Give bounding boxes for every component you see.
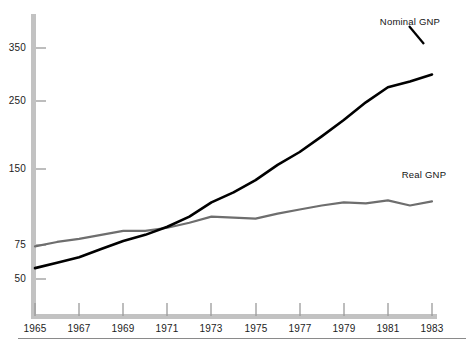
- x-tick-label-1967: 1967: [56, 323, 102, 334]
- series-annotation-real-gnp: Real GNP: [402, 169, 446, 180]
- y-tick-label-50: 50: [0, 273, 26, 284]
- y-tick-label-75: 75: [0, 239, 26, 250]
- y-tick-label-350: 350: [0, 42, 26, 53]
- x-axis-line: [31, 314, 437, 319]
- x-tick-label-1981: 1981: [365, 323, 411, 334]
- series-line-real-gnp: [35, 200, 432, 246]
- y-tick-label-250: 250: [0, 95, 26, 106]
- x-tick-label-1973: 1973: [188, 323, 234, 334]
- series-line-nominal-gnp: [35, 75, 432, 269]
- gnp-line-chart-figure: 350 250 150 75 50 1965 1967 1969 1971 19…: [0, 0, 475, 345]
- x-tick-label-1975: 1975: [233, 323, 279, 334]
- x-tick-label-1969: 1969: [100, 323, 146, 334]
- x-tick-label-1971: 1971: [144, 323, 190, 334]
- x-tick-label-1979: 1979: [321, 323, 367, 334]
- nominal-gnp-leader-line: [409, 26, 424, 44]
- x-tick-label-1965: 1965: [12, 323, 58, 334]
- x-tick-label-1977: 1977: [277, 323, 323, 334]
- series-annotation-nominal-gnp: Nominal GNP: [380, 16, 440, 27]
- bottom-divider-rule: [18, 338, 466, 339]
- y-axis-line: [31, 14, 36, 319]
- y-tick-label-150: 150: [0, 163, 26, 174]
- x-tick-label-1983: 1983: [409, 323, 455, 334]
